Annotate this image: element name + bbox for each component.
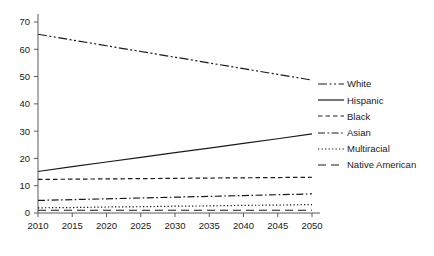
x-tick-label: 2040 bbox=[233, 220, 254, 231]
y-tick-label: 30 bbox=[19, 126, 30, 137]
legend-label-hispanic: Hispanic bbox=[347, 96, 383, 106]
legend-item-asian[interactable]: Asian bbox=[318, 125, 434, 141]
y-tick-label: 40 bbox=[19, 98, 30, 109]
series-line-black bbox=[38, 177, 312, 179]
legend-item-hispanic[interactable]: Hispanic bbox=[318, 92, 434, 108]
x-tick-label: 2030 bbox=[164, 220, 185, 231]
line-chart: 0102030405060702010201520202025203020352… bbox=[0, 0, 434, 256]
legend-swatch-multiracial bbox=[318, 144, 344, 154]
y-tick-label: 0 bbox=[25, 207, 30, 218]
y-tick-label: 20 bbox=[19, 153, 30, 164]
x-tick-label: 2020 bbox=[96, 220, 117, 231]
legend-item-black[interactable]: Black bbox=[318, 108, 434, 124]
legend-swatch-native-american bbox=[318, 160, 344, 170]
chart-legend: White Hispanic Black Asian Multiracial N… bbox=[318, 76, 434, 173]
series-line-white bbox=[38, 34, 312, 80]
legend-item-native-american[interactable]: Native American bbox=[318, 157, 434, 173]
legend-label-white: White bbox=[347, 79, 371, 89]
y-tick-label: 10 bbox=[19, 180, 30, 191]
legend-label-multiracial: Multiracial bbox=[347, 144, 390, 154]
legend-label-native-american: Native American bbox=[347, 160, 416, 170]
legend-item-multiracial[interactable]: Multiracial bbox=[318, 141, 434, 157]
x-tick-label: 2045 bbox=[267, 220, 288, 231]
legend-swatch-asian bbox=[318, 128, 344, 138]
legend-swatch-white bbox=[318, 79, 344, 89]
legend-label-asian: Asian bbox=[347, 128, 371, 138]
y-tick-label: 70 bbox=[19, 16, 30, 27]
x-tick-label: 2010 bbox=[27, 220, 48, 231]
legend-swatch-hispanic bbox=[318, 95, 344, 105]
series-line-asian bbox=[38, 194, 312, 201]
legend-item-white[interactable]: White bbox=[318, 76, 434, 92]
series-line-multiracial bbox=[38, 205, 312, 208]
legend-swatch-black bbox=[318, 111, 344, 121]
x-tick-label: 2015 bbox=[62, 220, 83, 231]
x-tick-label: 2025 bbox=[130, 220, 151, 231]
legend-label-black: Black bbox=[347, 112, 370, 122]
x-tick-label: 2050 bbox=[301, 220, 322, 231]
y-tick-label: 60 bbox=[19, 44, 30, 55]
series-line-hispanic bbox=[38, 134, 312, 172]
x-tick-label: 2035 bbox=[199, 220, 220, 231]
y-tick-label: 50 bbox=[19, 71, 30, 82]
